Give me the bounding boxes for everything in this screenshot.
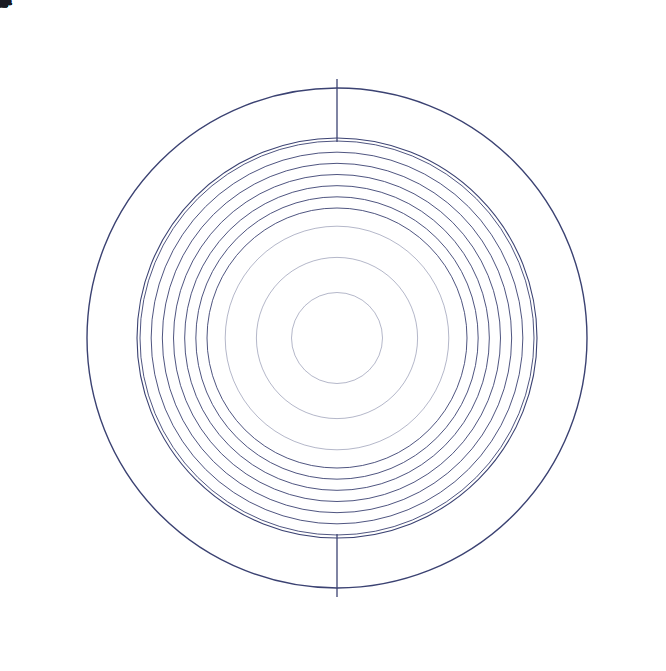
inner-guide-circle	[292, 293, 383, 384]
ring-gridline	[140, 141, 534, 535]
hexagram-label: 夬	[0, 0, 9, 9]
ring-gridline	[174, 175, 501, 502]
spokes-layer	[0, 0, 449, 450]
ring-gridline	[207, 208, 467, 468]
inner-guide-circle	[256, 257, 417, 418]
diagram-stage: 乾姤大过鼎恒巽井蛊升讼困未济解涣坎蒙师遁咸旅小过渐蹇艮谦否萃晋豫观比剥坤复频屯益…	[0, 0, 666, 671]
band-inner-circle	[137, 138, 537, 538]
ring-gridline	[196, 197, 478, 479]
ring-gridlines-layer	[0, 0, 534, 535]
hexagram-labels-layer: 乾姤大过鼎恒巽井蛊升讼困未济解涣坎蒙师遁咸旅小过渐蹇艮谦否萃晋豫观比剥坤复频屯益…	[0, 0, 13, 9]
ring-gridline	[185, 186, 490, 491]
fuxi-hexagram-circle-diagram: 乾姤大过鼎恒巽井蛊升讼困未济解涣坎蒙师遁咸旅小过渐蹇艮谦否萃晋豫观比剥坤复频屯益…	[0, 0, 666, 671]
inner-guide-circle	[225, 226, 449, 450]
ring-gridline	[162, 163, 511, 512]
